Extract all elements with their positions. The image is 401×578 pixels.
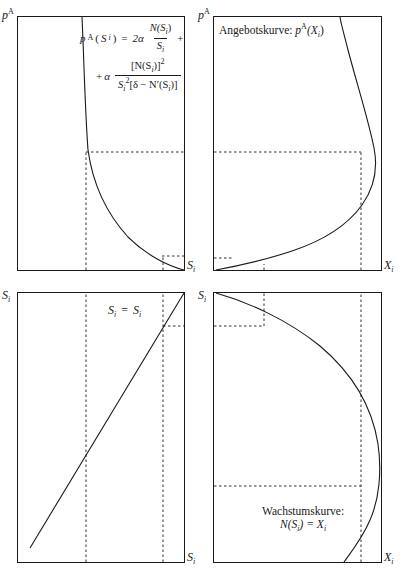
caption-angebotskurve: Angebotskurve: pA(Xi) — [219, 22, 324, 39]
panel-frame-top-right — [214, 17, 382, 271]
fraction-numerator: [N(Si)]2 — [128, 58, 168, 75]
formula-supply-price: pA(Si) = 2α N(Si) Si + + α [N(Si)]2 Si2[… — [80, 22, 184, 94]
caption-wachstumskurve-line2: N(Si) = Xi — [262, 518, 344, 533]
curve-supply — [216, 17, 376, 270]
formula-fraction-2: [N(Si)]2 Si2[δ − N′(Si)] — [115, 58, 181, 94]
axis-label-top-left-x: Si — [187, 259, 195, 274]
axis-label-top-right-x: Xi — [384, 259, 394, 274]
axis-label-top-right-y: pA — [198, 8, 210, 21]
formula-fraction-1: N(Si) Si — [147, 22, 174, 55]
axis-label-bottom-left-x: Si — [187, 551, 195, 566]
axis-label-bottom-left-y: Si — [2, 289, 10, 304]
caption-wachstumskurve: Wachstumskurve: N(Si) = Xi — [262, 505, 344, 534]
curve-identity-line — [30, 293, 184, 548]
caption-identity: Si=Si — [108, 303, 141, 319]
axis-label-bottom-right-x: Xi — [384, 551, 394, 566]
four-panel-figure: pA Si pA Xi Si Si Si Xi pA(Si) = 2α N(Si… — [0, 0, 401, 578]
fraction-numerator: N(Si) — [147, 22, 174, 38]
fraction-denominator: Si — [154, 38, 167, 55]
axis-label-top-left-y: pA — [2, 8, 14, 21]
panel-bottom-left — [18, 293, 185, 563]
fraction-denominator: Si2[δ − N′(Si)] — [115, 75, 181, 93]
formula-line-2: + α [N(Si)]2 Si2[δ − N′(Si)] — [80, 58, 184, 94]
formula-line-1: pA(Si) = 2α N(Si) Si + — [80, 22, 184, 55]
axis-label-bottom-right-y: Si — [198, 289, 206, 304]
panel-top-right — [214, 17, 382, 271]
caption-wachstumskurve-line1: Wachstumskurve: — [262, 505, 344, 518]
